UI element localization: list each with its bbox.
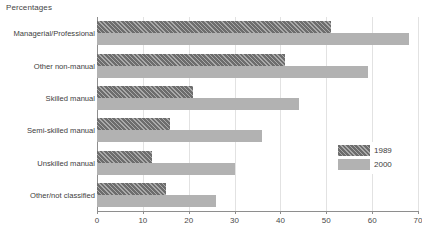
gridline bbox=[372, 17, 373, 211]
x-axis-tick bbox=[97, 211, 98, 214]
legend-item-2000: 2000 bbox=[338, 159, 392, 170]
x-axis-tick bbox=[143, 211, 144, 214]
bar-2000-5 bbox=[97, 163, 235, 175]
category-axis-labels: Managerial/ProfessionalOther non-manualS… bbox=[0, 0, 95, 245]
bar-2000-4 bbox=[97, 130, 262, 142]
bar-1989-6 bbox=[97, 183, 166, 195]
bar-1989-1 bbox=[97, 21, 331, 33]
x-axis-tick bbox=[189, 211, 190, 214]
category-label: Unskilled manual bbox=[3, 158, 95, 167]
legend-swatch-2000 bbox=[338, 159, 370, 170]
x-axis-tick-label: 50 bbox=[322, 216, 331, 226]
category-label: Skilled manual bbox=[3, 93, 95, 102]
x-axis-tick-label: 0 bbox=[95, 216, 99, 226]
x-axis-tick bbox=[418, 211, 419, 214]
bar-chart: Percentages Managerial/ProfessionalOther… bbox=[0, 0, 422, 245]
gridline bbox=[326, 17, 327, 211]
bar-1989-2 bbox=[97, 54, 285, 66]
bar-1989-4 bbox=[97, 118, 170, 130]
x-axis-tick-label: 20 bbox=[184, 216, 193, 226]
x-axis-tick bbox=[280, 211, 281, 214]
x-axis-tick-label: 60 bbox=[368, 216, 377, 226]
legend-label-1989: 1989 bbox=[374, 146, 392, 156]
x-axis-tick bbox=[372, 211, 373, 214]
bar-2000-6 bbox=[97, 195, 216, 207]
gridline bbox=[189, 17, 190, 211]
x-axis-tick bbox=[235, 211, 236, 214]
bar-1989-3 bbox=[97, 86, 193, 98]
bar-2000-2 bbox=[97, 66, 368, 78]
x-axis-tick-label: 10 bbox=[138, 216, 147, 226]
legend-swatch-1989 bbox=[338, 145, 370, 156]
legend-label-2000: 2000 bbox=[374, 160, 392, 170]
gridline bbox=[235, 17, 236, 211]
x-axis-line bbox=[97, 211, 418, 212]
x-axis-tick-label: 40 bbox=[276, 216, 285, 226]
category-label: Semi-skilled manual bbox=[3, 126, 95, 135]
plot-area bbox=[97, 17, 418, 211]
gridline bbox=[418, 17, 419, 211]
bar-2000-3 bbox=[97, 98, 299, 110]
bar-2000-1 bbox=[97, 33, 409, 45]
x-axis-tick bbox=[326, 211, 327, 214]
chart-legend: 1989 2000 bbox=[334, 142, 416, 174]
x-axis-tick-label: 70 bbox=[414, 216, 422, 226]
gridline bbox=[280, 17, 281, 211]
category-label: Other/not classified bbox=[3, 190, 95, 199]
category-label: Other non-manual bbox=[3, 61, 95, 70]
x-axis-tick-label: 30 bbox=[230, 216, 239, 226]
legend-item-1989: 1989 bbox=[338, 145, 392, 156]
category-label: Managerial/Professional bbox=[3, 29, 95, 38]
bar-1989-5 bbox=[97, 151, 152, 163]
